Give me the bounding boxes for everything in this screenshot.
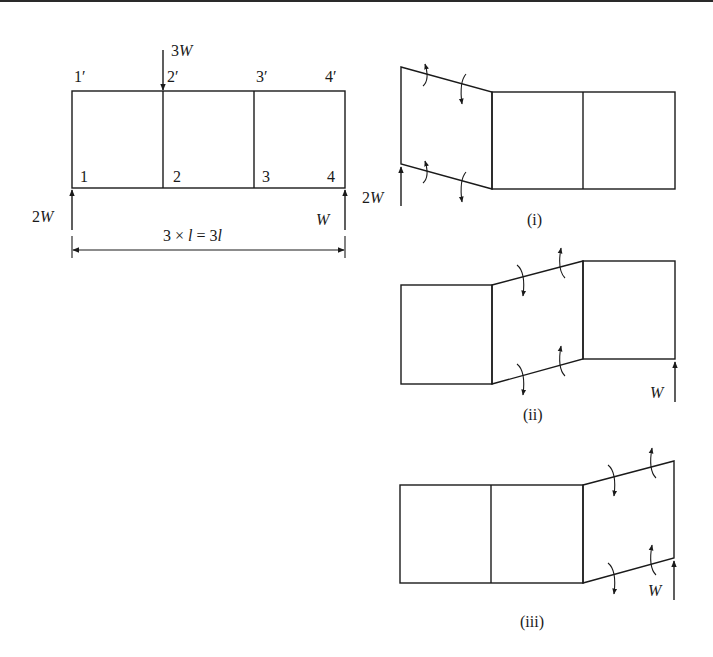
shear-flow-arrow-icon: [651, 448, 656, 478]
sheared-panel-3: [583, 461, 674, 583]
force-label: W: [650, 384, 665, 401]
node-label-3: 3: [262, 168, 270, 185]
deformed-shape-i: 2W (i): [362, 64, 675, 229]
node-label-1: 1: [80, 168, 88, 185]
shear-panel-diagram: 1′ 2′ 3′ 4′ 1 2 3 4 3W 2W W 3 × l = 3l 2…: [0, 0, 713, 657]
shear-flow-arrow-icon: [423, 161, 427, 183]
node-label-2: 2: [173, 168, 181, 185]
shear-flow-arrow-icon: [461, 172, 466, 202]
shear-flow-arrow-icon: [517, 265, 524, 296]
shear-flow-arrow-icon: [461, 74, 466, 104]
frame-outline: [72, 91, 345, 188]
original-frame: 1′ 2′ 3′ 4′ 1 2 3 4 3W 2W W 3 × l = 3l: [32, 42, 345, 258]
case-label-i: (i): [527, 211, 542, 229]
reaction-right-label: W: [316, 211, 331, 228]
node-label-4-prime: 4′: [325, 68, 337, 85]
shear-flow-arrow-icon: [651, 545, 656, 575]
case-label-ii: (ii): [523, 406, 543, 424]
node-label-3-prime: 3′: [256, 68, 268, 85]
shear-flow-arrow-icon: [608, 563, 615, 594]
case-label-iii: (iii): [520, 613, 544, 631]
undeformed-panel-3: [583, 261, 675, 359]
deformed-shape-iii: W (iii): [400, 448, 674, 631]
sheared-panel-2: [492, 261, 583, 384]
deformed-shape-ii: W (ii): [401, 248, 675, 424]
shear-flow-arrow-icon: [517, 364, 524, 395]
force-label: W: [648, 582, 663, 599]
force-label: 2W: [362, 189, 385, 206]
shear-flow-arrow-icon: [560, 248, 565, 278]
sheared-panel-1: [401, 67, 492, 189]
node-label-4: 4: [327, 168, 335, 185]
load-label: 3W: [171, 42, 194, 59]
shear-flow-arrow-icon: [560, 346, 565, 376]
node-label-1-prime: 1′: [74, 68, 86, 85]
node-label-2-prime: 2′: [167, 68, 179, 85]
dimension-label: 3 × l = 3l: [163, 227, 223, 244]
undeformed-panel-1: [401, 285, 492, 384]
shear-flow-arrow-icon: [608, 465, 615, 496]
reaction-left-label: 2W: [32, 208, 55, 225]
shear-flow-arrow-icon: [423, 64, 427, 86]
